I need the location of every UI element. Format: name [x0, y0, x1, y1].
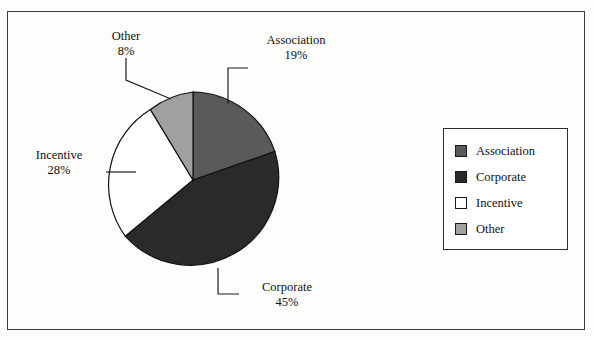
callout-association-name: Association: [266, 33, 325, 47]
legend-label-corporate: Corporate: [476, 170, 526, 185]
legend-swatch-association: [455, 145, 467, 157]
legend-swatch-incentive: [455, 197, 467, 209]
leader-line-association: [228, 68, 248, 104]
callout-corporate: Corporate 45%: [237, 280, 337, 310]
legend-swatch-other: [455, 223, 467, 235]
legend-item-corporate[interactable]: Corporate: [455, 164, 567, 190]
leader-line-corporate: [218, 268, 239, 294]
callout-other: Other 8%: [85, 29, 167, 59]
callout-other-percent: 8%: [85, 44, 167, 59]
legend-label-other: Other: [476, 222, 504, 237]
legend-label-incentive: Incentive: [476, 196, 523, 211]
legend-item-other[interactable]: Other: [455, 216, 567, 242]
legend-item-incentive[interactable]: Incentive: [455, 190, 567, 216]
chart-legend: Association Corporate Incentive Other: [443, 128, 568, 250]
callout-incentive: Incentive 28%: [16, 148, 102, 178]
callout-incentive-name: Incentive: [36, 148, 83, 162]
leader-line-other: [126, 58, 171, 99]
callout-corporate-percent: 45%: [237, 295, 337, 310]
callout-association: Association 19%: [246, 33, 346, 63]
callout-association-percent: 19%: [246, 48, 346, 63]
chart-page: Association 19% Corporate 45% Incentive …: [0, 0, 593, 341]
callout-incentive-percent: 28%: [16, 163, 102, 178]
callout-other-name: Other: [112, 29, 140, 43]
legend-item-association[interactable]: Association: [455, 138, 567, 164]
legend-swatch-corporate: [455, 171, 467, 183]
callout-corporate-name: Corporate: [262, 280, 312, 294]
legend-label-association: Association: [476, 144, 535, 159]
